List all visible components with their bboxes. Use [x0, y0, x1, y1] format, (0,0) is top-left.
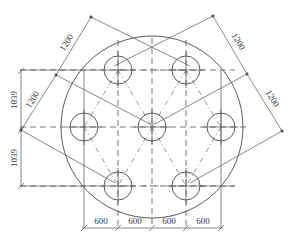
- pile-layout-drawing: 600 600 600 600 1039 1039 1200 1200 1200…: [0, 0, 294, 240]
- dim-diag-left-2: 1200: [24, 89, 42, 110]
- dim-diag-left-1: 1200: [58, 32, 76, 53]
- dim-left-2: 1039: [9, 149, 19, 168]
- dim-left-1: 1039: [9, 91, 19, 110]
- diagonal-dimension-right: [114, 15, 283, 183]
- triangulation-lines: [84, 70, 221, 186]
- dim-bottom-2: 600: [128, 216, 142, 226]
- dim-bottom-1: 600: [94, 216, 108, 226]
- grid-lines: [20, 38, 250, 228]
- left-dimension-line: [18, 68, 24, 189]
- dim-bottom-3: 600: [162, 216, 176, 226]
- dim-bottom-4: 600: [196, 216, 210, 226]
